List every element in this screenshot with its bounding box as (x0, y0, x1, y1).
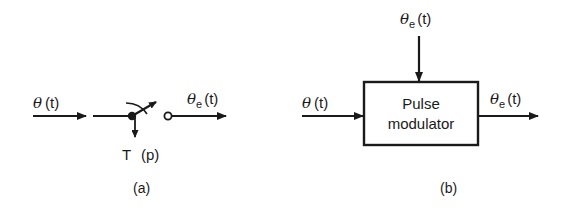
sampler-period-label: T (122, 146, 131, 163)
panel-b-output-label: θe(t) (490, 90, 521, 110)
pulse-modulator-block (364, 82, 478, 145)
panel-a-input-label: θ(t) (33, 94, 59, 112)
panel-a-caption: (a) (133, 180, 150, 196)
panel-a: θ(t) θe(t) T (p) (a (33, 90, 226, 196)
panel-b-top-input-label: θe(t) (400, 10, 431, 30)
diagram-svg: θ(t) θe(t) T (p) (a (0, 0, 562, 211)
panel-b-input-label: θ(t) (302, 94, 328, 112)
panel-a-output-label: θe(t) (187, 90, 218, 110)
block-label-line2: modulator (388, 115, 455, 132)
sampler-pulse-label: (p) (141, 146, 159, 163)
sampler-open-contact (164, 112, 171, 119)
panel-b-caption: (b) (440, 180, 457, 196)
panel-b: θe(t) Pulse modulator θ(t) θe(t) (b) (302, 10, 538, 196)
diagram-canvas: θ(t) θe(t) T (p) (a (0, 0, 562, 211)
block-label-line1: Pulse (402, 95, 440, 112)
